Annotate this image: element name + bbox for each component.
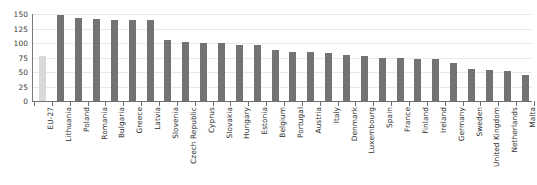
bar-spain — [379, 58, 386, 102]
y-tick-label-0: 0 — [23, 97, 32, 106]
x-label-slovakia: Slovakia — [225, 107, 234, 138]
x-tick — [427, 101, 428, 106]
x-tick — [248, 101, 249, 106]
x-tick — [34, 101, 35, 106]
x-tick — [445, 101, 446, 106]
x-label-belgium: Belgium — [278, 107, 287, 138]
x-label-spain: Spain — [385, 107, 394, 128]
x-label-sweden: Sweden — [475, 107, 484, 137]
y-tick-label-75: 75 — [18, 53, 32, 62]
bar-bulgaria — [111, 20, 118, 101]
bar-hungary — [236, 45, 243, 101]
bar-lithuania — [57, 15, 64, 101]
bar-romania — [93, 19, 100, 101]
bar-austria — [307, 52, 314, 101]
bar-netherlands — [504, 71, 511, 101]
bar-belgium — [272, 50, 279, 101]
x-tick — [534, 101, 535, 106]
x-tick — [516, 101, 517, 106]
x-tick — [70, 101, 71, 106]
bar-czech-republic — [182, 42, 189, 101]
x-tick — [195, 101, 196, 106]
bar-germany — [450, 63, 457, 101]
x-tick — [373, 101, 374, 106]
x-tick — [213, 101, 214, 106]
x-label-finland: Finland — [421, 107, 430, 134]
bar-finland — [414, 59, 421, 101]
bar-italy — [325, 53, 332, 101]
x-tick — [159, 101, 160, 106]
x-tick — [123, 101, 124, 106]
bar-sweden — [468, 69, 475, 101]
x-tick — [302, 101, 303, 106]
x-label-united-kingdom: United Kingdom — [492, 107, 501, 167]
bar-portugal — [289, 52, 296, 101]
x-axis-category-labels: EU-27LithuaniaPolandRomaniaBulgariaGreec… — [32, 107, 532, 185]
x-label-poland: Poland — [82, 107, 91, 132]
bar-chart: 0255075100125150 EU-27LithuaniaPolandRom… — [0, 0, 537, 185]
x-label-portugal: Portugal — [296, 107, 305, 138]
bar-cyprus — [200, 43, 207, 101]
x-label-germany: Germany — [457, 107, 466, 141]
bar-poland — [75, 18, 82, 101]
x-axis-ticks — [32, 101, 532, 106]
x-label-austria: Austria — [314, 107, 323, 133]
y-tick-label-100: 100 — [14, 39, 32, 48]
x-label-lithuania: Lithuania — [64, 107, 73, 142]
x-label-ireland: Ireland — [439, 107, 448, 133]
plot-area — [32, 14, 532, 101]
bar-luxembourg — [361, 56, 368, 101]
x-tick — [355, 101, 356, 106]
x-tick — [338, 101, 339, 106]
bar-eu-27 — [39, 56, 46, 101]
x-label-bulgaria: Bulgaria — [117, 107, 126, 138]
x-label-denmark: Denmark — [350, 107, 359, 141]
x-label-czech-republic: Czech Republic — [189, 107, 198, 164]
bar-malta — [522, 75, 529, 101]
bar-series — [32, 14, 532, 101]
y-tick-label-25: 25 — [18, 82, 32, 91]
x-tick — [88, 101, 89, 106]
x-tick — [320, 101, 321, 106]
x-label-hungary: Hungary — [242, 107, 251, 139]
bar-slovenia — [164, 40, 171, 101]
x-label-estonia: Estonia — [260, 107, 269, 135]
bar-france — [397, 58, 404, 101]
x-tick — [177, 101, 178, 106]
x-tick — [52, 101, 53, 106]
bar-ireland — [432, 59, 439, 101]
y-tick-label-50: 50 — [18, 68, 32, 77]
y-tick-label-125: 125 — [14, 24, 32, 33]
x-tick — [409, 101, 410, 106]
bar-estonia — [254, 45, 261, 101]
x-tick — [463, 101, 464, 106]
y-axis-line — [32, 14, 33, 101]
x-label-eu-27: EU-27 — [46, 107, 55, 129]
x-tick — [391, 101, 392, 106]
bar-greece — [129, 20, 136, 101]
x-label-netherlands: Netherlands — [510, 107, 519, 153]
x-tick — [141, 101, 142, 106]
bar-slovakia — [218, 43, 225, 101]
x-label-slovenia: Slovenia — [171, 107, 180, 139]
x-tick — [498, 101, 499, 106]
x-label-malta: Malta — [528, 107, 537, 128]
x-label-italy: Italy — [332, 107, 341, 123]
x-label-greece: Greece — [135, 107, 144, 134]
y-tick-label-150: 150 — [14, 10, 32, 19]
x-tick — [105, 101, 106, 106]
x-label-luxembourg: Luxembourg — [367, 107, 376, 154]
x-tick — [266, 101, 267, 106]
bar-denmark — [343, 55, 350, 101]
x-label-france: France — [403, 107, 412, 132]
x-label-cyprus: Cyprus — [207, 107, 216, 133]
x-tick — [230, 101, 231, 106]
x-tick — [480, 101, 481, 106]
x-label-romania: Romania — [100, 107, 109, 140]
x-tick — [284, 101, 285, 106]
x-label-latvia: Latvia — [153, 107, 162, 130]
bar-latvia — [147, 20, 154, 101]
bar-united-kingdom — [486, 70, 493, 101]
